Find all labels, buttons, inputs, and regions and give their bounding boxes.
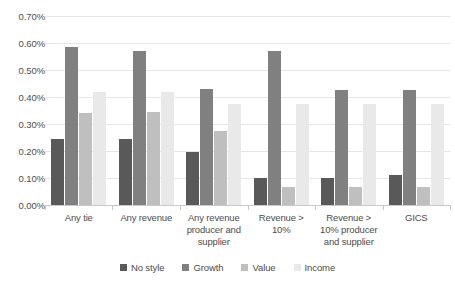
legend-item[interactable]: Income <box>294 262 336 273</box>
bar-group <box>248 16 316 205</box>
bar[interactable] <box>51 139 64 205</box>
bar[interactable] <box>389 175 402 205</box>
bar-slot <box>51 16 64 205</box>
category-label: Any tie <box>45 212 113 248</box>
y-axis-tick-label: 0.50% <box>3 65 45 76</box>
bar-slot <box>431 16 444 205</box>
bar-slot <box>268 16 281 205</box>
bar-group <box>180 16 248 205</box>
bar-slot <box>186 16 199 205</box>
category-label: Revenue > 10% producer and supplier <box>315 212 383 248</box>
chart-legend: No styleGrowthValueIncome <box>0 262 455 273</box>
bar[interactable] <box>147 112 160 205</box>
bar-slot <box>79 16 92 205</box>
legend-swatch-icon <box>120 264 127 271</box>
bar[interactable] <box>296 104 309 205</box>
bar[interactable] <box>119 139 132 205</box>
bar[interactable] <box>200 89 213 205</box>
legend-label: Income <box>305 262 336 273</box>
bar[interactable] <box>417 187 430 205</box>
y-axis: 0.70%0.60%0.50%0.40%0.30%0.20%0.10%0.00% <box>0 0 45 287</box>
bar-group <box>315 16 383 205</box>
category-label: GICS <box>383 212 451 248</box>
bar-slot <box>228 16 241 205</box>
bar-slot <box>389 16 402 205</box>
legend-item[interactable]: Growth <box>182 262 223 273</box>
bar[interactable] <box>161 92 174 205</box>
bar-slot <box>93 16 106 205</box>
y-axis-tick-label: 0.30% <box>3 119 45 130</box>
legend-swatch-icon <box>294 264 301 271</box>
bar[interactable] <box>254 178 267 205</box>
category-tick <box>180 205 181 210</box>
y-axis-tick-label: 0.40% <box>3 92 45 103</box>
bar-slot <box>403 16 416 205</box>
bar[interactable] <box>403 90 416 205</box>
bar-slot <box>147 16 160 205</box>
y-axis-tick-label: 0.70% <box>3 11 45 22</box>
bar-slot <box>349 16 362 205</box>
category-tick <box>450 205 451 210</box>
legend-item[interactable]: Value <box>241 262 275 273</box>
legend-label: Growth <box>193 262 223 273</box>
category-labels: Any tieAny revenueAny revenue producer a… <box>45 212 450 248</box>
bar[interactable] <box>214 131 227 205</box>
bar-slot <box>417 16 430 205</box>
y-axis-tick-label: 0.20% <box>3 146 45 157</box>
bar-group <box>383 16 451 205</box>
legend-item[interactable]: No style <box>120 262 165 273</box>
category-tick <box>45 205 46 210</box>
legend-label: No style <box>131 262 165 273</box>
bar[interactable] <box>186 152 199 205</box>
bar[interactable] <box>93 92 106 205</box>
bar[interactable] <box>228 104 241 205</box>
bar[interactable] <box>335 90 348 205</box>
bar[interactable] <box>349 187 362 205</box>
category-tick <box>112 205 113 210</box>
bar[interactable] <box>321 178 334 205</box>
bar[interactable] <box>363 104 376 205</box>
y-axis-tick-label: 0.00% <box>3 200 45 211</box>
y-axis-tick-label: 0.60% <box>3 38 45 49</box>
bar-group <box>113 16 181 205</box>
category-label: Revenue > 10% <box>248 212 316 248</box>
legend-swatch-icon <box>241 264 248 271</box>
legend-label: Value <box>252 262 275 273</box>
bar-slot <box>65 16 78 205</box>
bar-slot <box>200 16 213 205</box>
category-label: Any revenue producer and supplier <box>180 212 248 248</box>
bar-slot <box>133 16 146 205</box>
category-ticks <box>45 205 450 210</box>
bar[interactable] <box>282 187 295 205</box>
category-tick <box>315 205 316 210</box>
bar-slot <box>335 16 348 205</box>
bar-slot <box>161 16 174 205</box>
category-tick <box>383 205 384 210</box>
bar-group <box>45 16 113 205</box>
bar-slot <box>254 16 267 205</box>
bar[interactable] <box>431 104 444 205</box>
bar-groups <box>45 16 450 205</box>
bar-slot <box>321 16 334 205</box>
bar-slot <box>296 16 309 205</box>
bar[interactable] <box>79 113 92 205</box>
bar[interactable] <box>133 51 146 205</box>
category-tick <box>248 205 249 210</box>
legend-swatch-icon <box>182 264 189 271</box>
bar[interactable] <box>268 51 281 205</box>
bar-slot <box>119 16 132 205</box>
category-label: Any revenue <box>113 212 181 248</box>
bar-slot <box>214 16 227 205</box>
bar-slot <box>363 16 376 205</box>
bar-chart: 0.70%0.60%0.50%0.40%0.30%0.20%0.10%0.00%… <box>0 0 455 287</box>
bar[interactable] <box>65 47 78 205</box>
bar-slot <box>282 16 295 205</box>
y-axis-tick-label: 0.10% <box>3 173 45 184</box>
